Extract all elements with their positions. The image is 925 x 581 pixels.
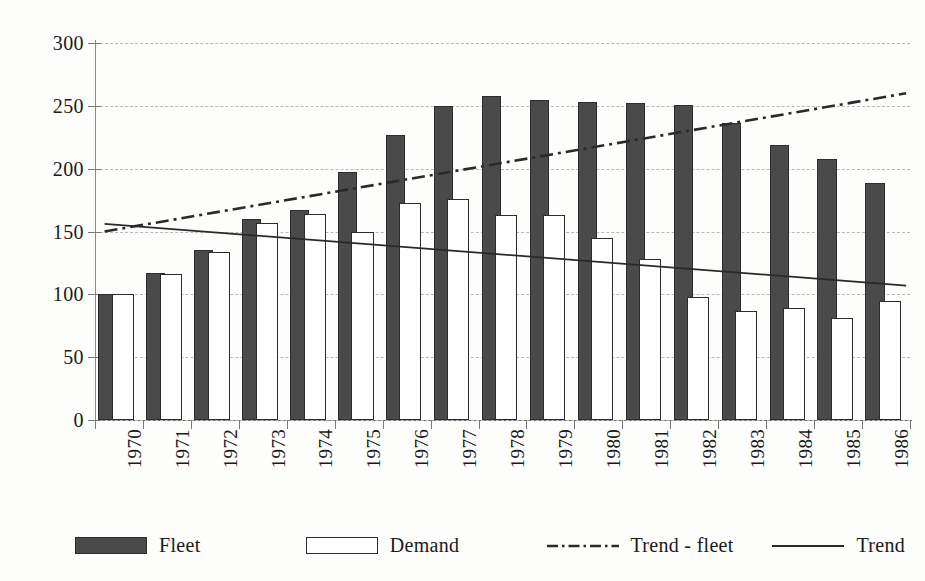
x-axis-tick [670,420,671,429]
legend-swatch-demand-icon [306,537,378,554]
x-axis-tick [526,420,527,429]
x-axis-tick-label: 1982 [700,429,719,468]
y-axis-tick-label: 50 [63,347,84,367]
bar-group [862,43,910,420]
bar-demand [351,232,373,421]
bar-group [526,43,574,420]
bar-group [766,43,814,420]
x-axis-tick [910,420,911,429]
bar-demand [399,203,421,420]
legend-swatch-trend-fleet-icon [547,537,619,554]
y-axis-tick-label: 150 [53,221,84,241]
x-axis-tick-label: 1978 [508,429,527,468]
legend-swatch-fleet-icon [75,537,147,554]
bar-demand [112,294,134,420]
legend-item: Trend - fleet [547,535,773,555]
x-axis-tick-label: 1976 [412,429,431,468]
x-axis-tick [574,420,575,429]
bar-demand [208,252,230,420]
bar-demand [591,238,613,420]
bar-demand [543,215,565,420]
x-axis-tick [335,420,336,429]
legend-swatch-trend-icon [772,537,844,554]
x-axis-tick [239,420,240,429]
x-axis-tick-label: 1986 [892,429,911,468]
bar-demand [160,274,182,420]
bar-group [718,43,766,420]
x-axis-tick [191,420,192,429]
x-axis-tick [718,420,719,429]
bar-group [670,43,718,420]
legend-label: Trend - fleet [631,535,734,555]
x-axis-tick-label: 1984 [796,429,815,468]
legend-label: Trend [856,535,905,555]
bar-demand [447,199,469,420]
x-axis-tick [287,420,288,429]
chart-legend: FleetDemandTrend - fleetTrend [75,525,905,565]
gridline [95,420,910,421]
x-axis-tick-label: 1985 [844,429,863,468]
bar-chart: 050100150200250300 197019711972197319741… [0,0,925,581]
bar-group [95,43,143,420]
x-axis-tick-label: 1977 [460,429,479,468]
y-axis-tick-label: 300 [53,33,84,53]
bar-group [383,43,431,420]
x-axis-tick-label: 1980 [604,429,623,468]
plot-area: 050100150200250300 [95,43,910,420]
bar-demand [495,215,517,420]
bar-group [479,43,527,420]
bar-group [335,43,383,420]
legend-item: Trend [772,535,905,555]
legend-label: Fleet [159,535,201,555]
x-axis-tick [479,420,480,429]
bar-group [574,43,622,420]
x-axis-tick-label: 1970 [125,429,144,468]
x-axis-tick [143,420,144,429]
x-axis-tick [95,420,96,429]
x-axis-tick-label: 1979 [556,429,575,468]
legend-label: Demand [390,535,460,555]
x-axis-tick [862,420,863,429]
bar-demand [879,301,901,420]
bar-group [814,43,862,420]
x-axis-tick [814,420,815,429]
bar-group [622,43,670,420]
legend-item: Demand [306,535,547,555]
bar-demand [304,214,326,420]
legend-item: Fleet [75,535,306,555]
x-axis-tick [622,420,623,429]
x-axis-tick-label: 1971 [173,429,192,468]
bar-demand [783,308,805,420]
bar-demand [639,259,661,420]
bar-group [191,43,239,420]
bar-group [287,43,335,420]
y-axis-tick-label: 200 [53,158,84,178]
bar-demand [735,311,757,420]
x-axis-labels: 1970197119721973197419751976197719781979… [95,429,910,514]
bar-group [431,43,479,420]
y-axis-tick-label: 250 [53,95,84,115]
bar-demand [256,223,278,420]
x-axis-tick-label: 1974 [316,429,335,468]
bar-group [143,43,191,420]
x-axis-tick [431,420,432,429]
x-axis-tick [766,420,767,429]
x-axis-tick-label: 1981 [652,429,671,468]
x-axis-tick-label: 1972 [221,429,240,468]
x-axis-tick-label: 1973 [269,429,288,468]
x-axis-tick-label: 1983 [748,429,767,468]
bar-group [239,43,287,420]
x-axis-tick [383,420,384,429]
y-axis-tick-label: 100 [53,284,84,304]
x-axis-tick-label: 1975 [364,429,383,468]
bar-demand [687,297,709,420]
y-axis-tick-label: 0 [74,410,84,430]
bar-demand [831,318,853,420]
